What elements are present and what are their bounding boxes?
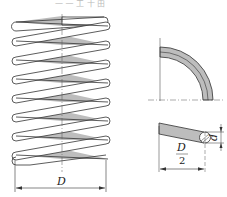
label-D: D	[56, 175, 66, 188]
label-d: d	[207, 134, 220, 141]
wire-section	[159, 123, 224, 172]
label-D-half-denominator: 2	[179, 155, 185, 166]
quarter-section	[148, 38, 224, 101]
caption-partial: — — 工 十 由	[55, 0, 105, 8]
helical-spring	[12, 16, 111, 165]
spring-diagram: — — 工 十 由	[0, 0, 227, 197]
label-D-half-numerator: D	[176, 141, 186, 154]
